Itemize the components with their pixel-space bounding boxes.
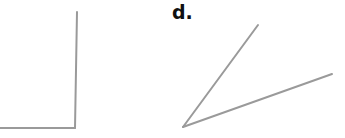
angle-ray-c-1 <box>75 12 77 128</box>
right-angle-figure <box>0 12 77 128</box>
angle-ray-d-1 <box>183 25 258 127</box>
acute-angle-figure <box>183 25 332 127</box>
figure-d-label: d. <box>172 0 193 24</box>
angle-ray-d-2 <box>183 74 332 127</box>
